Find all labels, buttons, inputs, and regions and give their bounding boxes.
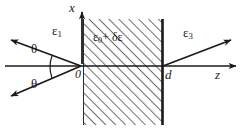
- transmitted-ray-line: [163, 40, 231, 66]
- diagram-canvas: [0, 0, 244, 133]
- angle-arc-lower: [50, 66, 52, 78]
- incident-ray-line: [11, 66, 81, 96]
- x-axis-label: x: [69, 1, 75, 14]
- angle-label-lower: θ: [31, 77, 37, 90]
- angle-label-upper: θ: [31, 42, 37, 55]
- angle-arc-upper: [50, 56, 52, 66]
- origin-label: 0: [75, 68, 81, 80]
- physics-diagram: x z 0 d ε1 ε0+ δε ε3 θ θ: [0, 0, 244, 133]
- plus-sign: +: [102, 30, 112, 44]
- eps3-subscript: 3: [188, 31, 192, 41]
- reflected-ray-line: [11, 40, 81, 66]
- eps1-subscript: 1: [57, 29, 61, 39]
- thickness-label: d: [165, 68, 172, 81]
- slab-permittivity-label: ε0+ δε: [93, 31, 123, 45]
- region-left-permittivity-label: ε1: [52, 24, 62, 39]
- region-right-permittivity-label: ε3: [183, 26, 193, 41]
- z-axis-label: z: [215, 68, 220, 81]
- delta-eps-symbol: δε: [112, 30, 123, 44]
